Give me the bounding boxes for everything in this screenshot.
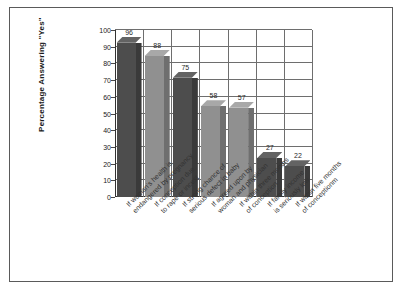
bar-value-label-4: 58 (210, 92, 218, 99)
vertical-gridline-7 (312, 30, 313, 197)
bar-side-face-1 (136, 43, 142, 197)
bar-1[interactable] (117, 37, 136, 197)
bar-value-label-2: 88 (153, 42, 161, 49)
bar-value-label-7: 22 (294, 152, 302, 159)
bar-front-face-1 (117, 43, 136, 197)
y-tick-label-50: 50 (103, 110, 111, 117)
y-tick-mark-0 (111, 197, 115, 198)
y-tick-label-20: 20 (103, 160, 111, 167)
y-axis-title: Percentage Answering "Yes" (37, 0, 46, 150)
y-tick-label-80: 80 (103, 60, 111, 67)
gridline-100 (115, 29, 312, 30)
y-tick-label-0: 0 (107, 194, 111, 201)
y-tick-label-70: 70 (103, 77, 111, 84)
y-tick-label-40: 40 (103, 127, 111, 134)
bar-value-label-3: 75 (181, 64, 189, 71)
bar-value-label-6: 27 (266, 144, 274, 151)
y-tick-label-30: 30 (103, 143, 111, 150)
y-tick-label-60: 60 (103, 93, 111, 100)
y-tick-label-100: 100 (99, 27, 111, 34)
gridline-90 (115, 46, 312, 47)
y-tick-label-10: 10 (103, 177, 111, 184)
chart-frame: Percentage Answering "Yes" 0102030405060… (9, 7, 393, 282)
bar-value-label-1: 96 (125, 29, 133, 36)
bar-value-label-5: 57 (238, 94, 246, 101)
vertical-gridline-3 (199, 30, 200, 197)
y-tick-label-90: 90 (103, 43, 111, 50)
